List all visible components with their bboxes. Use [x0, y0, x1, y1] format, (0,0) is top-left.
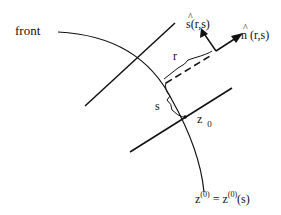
z0-point [183, 115, 187, 119]
front-label: front [15, 24, 40, 37]
z0-subscript: 0 [207, 119, 212, 129]
upper-line [85, 23, 175, 106]
z0-base: z [197, 112, 202, 126]
r-label: r [173, 50, 177, 62]
eq-mid: = z [210, 192, 228, 206]
z0-label: z 0 [197, 113, 212, 125]
diagram-canvas [0, 0, 281, 215]
s-hat-label: s(r,s) [186, 18, 210, 30]
s-hat-arrow-shaft [205, 35, 216, 51]
n-hat-arrow-shaft [216, 38, 236, 51]
eq-mid-sup: (0) [228, 190, 237, 199]
eq-left-sup: (0) [200, 190, 209, 199]
n-hat-label: n (r,s) [241, 29, 269, 41]
s-brace [166, 82, 184, 117]
eq-right: (s) [237, 192, 250, 206]
s-label: s [155, 100, 160, 112]
front-curve [58, 32, 204, 192]
curve-equation: z(0) = z(0)(s) [195, 193, 250, 205]
r-brace [164, 51, 212, 79]
lower-line [130, 88, 232, 152]
